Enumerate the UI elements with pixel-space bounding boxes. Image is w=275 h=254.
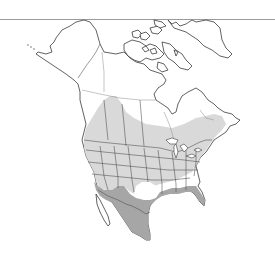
aleutian-islands — [27, 44, 34, 49]
north-america-map — [0, 0, 275, 254]
range-map: Species range map — North America — [0, 0, 275, 254]
